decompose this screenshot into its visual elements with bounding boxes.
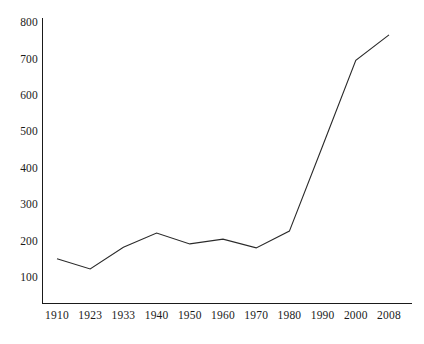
data-series-line xyxy=(57,35,389,269)
line-chart: 100200300400500600700800 191019231933194… xyxy=(0,0,424,344)
x-axis-tick-label: 2008 xyxy=(369,309,409,322)
plot-area xyxy=(0,0,424,344)
x-axis-tick-labels: 1910192319331940195019601970198019902000… xyxy=(0,309,424,329)
